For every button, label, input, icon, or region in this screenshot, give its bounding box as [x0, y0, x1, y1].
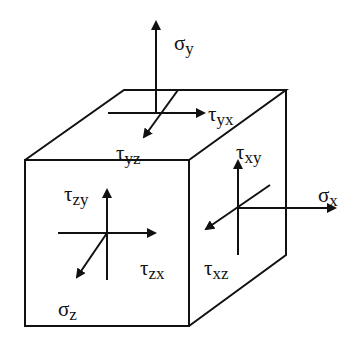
- label-tau-zy: τzy: [64, 184, 89, 205]
- label-tau-yz: τyz: [116, 143, 141, 164]
- label-tau-zx: τzx: [140, 258, 165, 279]
- stress-element-diagram: σy τyx τyz τxy σx τxz τzy τzx σz: [0, 0, 358, 339]
- label-tau-xy: τxy: [236, 142, 261, 163]
- label-sigma-y: σy: [174, 33, 194, 54]
- label-sigma-z: σz: [58, 299, 77, 320]
- label-tau-xz: τxz: [204, 258, 229, 279]
- sigma-z-arrow: [77, 233, 107, 277]
- label-tau-yx: τyx: [208, 104, 233, 125]
- label-sigma-x: σx: [318, 185, 338, 206]
